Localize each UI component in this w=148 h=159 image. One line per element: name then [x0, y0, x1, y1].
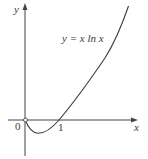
- x-axis-label: x: [133, 121, 139, 133]
- y-axis-label: y: [13, 3, 19, 15]
- chart-figure: y x 0 1 y = x ln x: [0, 0, 148, 159]
- y-axis-arrow-icon: [23, 3, 28, 10]
- curve-xlnx: [26, 6, 129, 133]
- origin-label: 0: [15, 120, 21, 132]
- origin-open-point: [24, 118, 28, 122]
- function-label: y = x ln x: [61, 32, 104, 44]
- tick-label-1: 1: [58, 121, 64, 133]
